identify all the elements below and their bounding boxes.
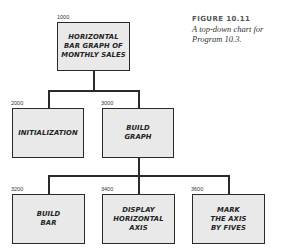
node-id-label: 3400 [101, 186, 113, 192]
connector-to-3000 [138, 90, 140, 108]
node-3600-mark-axis-by-fives: MARK THE AXIS BY FIVES [192, 194, 265, 244]
node-label: HORIZONTAL BAR GRAPH OF MONTHLY SALES [61, 33, 125, 60]
figure-title: FIGURE 10.11 [192, 14, 290, 24]
connector-to-3200 [48, 175, 50, 194]
node-label: MARK THE AXIS BY FIVES [210, 206, 246, 233]
node-label: DISPLAY HORIZONTAL AXIS [113, 206, 163, 233]
node-3200-build-bar: BUILD BAR [12, 194, 85, 244]
node-id-label: 2000 [11, 100, 23, 106]
node-label: BUILD BAR [37, 210, 61, 228]
node-label: BUILD GRAPH [124, 124, 151, 142]
node-3400-display-horizontal-axis: DISPLAY HORIZONTAL AXIS [102, 194, 175, 244]
connector-level1-horizontal [48, 90, 140, 92]
node-id-label: 3200 [11, 186, 23, 192]
figure-caption: FIGURE 10.11 A top-down chart for Progra… [192, 14, 290, 44]
connector-to-3600 [228, 175, 230, 194]
node-2000-initialization: INITIALIZATION [12, 108, 84, 158]
node-id-label: 3000 [101, 100, 113, 106]
node-1000-horizontal-bar-graph: HORIZONTAL BAR GRAPH OF MONTHLY SALES [57, 22, 130, 71]
connector-1000-down [93, 70, 95, 90]
figure-description: A top-down chart for Program 10.3. [192, 24, 290, 44]
connector-to-2000 [48, 90, 50, 108]
node-3000-build-graph: BUILD GRAPH [102, 108, 174, 158]
connector-level2-horizontal [48, 175, 229, 177]
node-id-label: 3600 [191, 186, 203, 192]
node-id-label: 1000 [57, 14, 69, 20]
node-label: INITIALIZATION [18, 129, 78, 138]
